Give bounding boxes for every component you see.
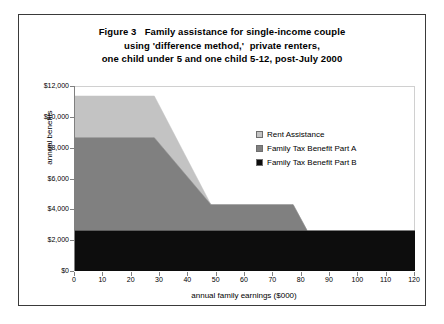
x-tick-label: 90 [314,276,344,284]
x-tick-mark [216,272,217,276]
area-ftb-part-a [75,138,415,231]
area-ftb-part-b [75,231,415,271]
stacked-area-plot [75,86,415,271]
x-tick-label: 110 [371,276,401,284]
x-tick-label: 70 [257,276,287,284]
x-tick-label: 0 [59,276,89,284]
chart-title: Figure 3 Family assistance for single-in… [19,25,425,66]
x-tick-mark [272,272,273,276]
x-axis-title: annual family earnings ($000) [74,291,414,300]
x-tick-mark [131,272,132,276]
plot-area [74,86,414,271]
x-tick-mark [74,272,75,276]
x-tick-mark [414,272,415,276]
x-tick-mark [357,272,358,276]
x-tick-label: 60 [229,276,259,284]
x-tick-mark [187,272,188,276]
x-tick-label: 80 [286,276,316,284]
legend-label: Rent Assistance [267,130,324,139]
x-tick-mark [301,272,302,276]
x-tick-mark [244,272,245,276]
legend-item: Family Tax Benefit Part B [256,156,357,169]
legend-item: Family Tax Benefit Part A [256,142,357,155]
x-tick-label: 20 [116,276,146,284]
y-tick-label: $8,000 [21,144,69,152]
legend-swatch [256,145,263,152]
y-tick-label: $0 [21,267,69,275]
chart-title-line-3: one child under 5 and one child 5-12, po… [19,52,425,66]
figure-frame: Figure 3 Family assistance for single-in… [18,14,426,306]
x-tick-label: 30 [144,276,174,284]
y-tick-label: $6,000 [21,175,69,183]
y-tick-label: $10,000 [21,113,69,121]
x-tick-mark [102,272,103,276]
x-tick-label: 100 [342,276,372,284]
x-tick-label: 120 [399,276,429,284]
legend-item: Rent Assistance [256,128,357,141]
legend-swatch [256,131,263,138]
chart-title-line-1: Figure 3 Family assistance for single-in… [19,25,425,39]
chart-legend: Rent AssistanceFamily Tax Benefit Part A… [256,128,357,170]
chart-title-line-2: using 'difference method,' private rente… [19,39,425,53]
x-tick-label: 40 [172,276,202,284]
legend-label: Family Tax Benefit Part A [267,144,356,153]
x-tick-label: 50 [201,276,231,284]
y-tick-label: $4,000 [21,205,69,213]
x-tick-mark [159,272,160,276]
x-tick-mark [386,272,387,276]
legend-swatch [256,159,263,166]
y-tick-label: $2,000 [21,236,69,244]
x-tick-label: 10 [87,276,117,284]
x-tick-mark [329,272,330,276]
legend-label: Family Tax Benefit Part B [267,158,357,167]
y-tick-label: $12,000 [21,82,69,90]
